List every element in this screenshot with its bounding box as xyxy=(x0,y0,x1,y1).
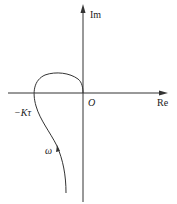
origin-label: O xyxy=(88,97,95,108)
real-axis-label: Re xyxy=(157,97,169,108)
nyquist-curve xyxy=(34,73,83,193)
intercept-label: −Kτ xyxy=(14,107,31,118)
real-axis-arrow xyxy=(159,91,168,96)
frequency-label: ω xyxy=(45,145,52,156)
imag-axis-arrow xyxy=(81,4,86,13)
nyquist-diagram: Im Re O −Kτ ω xyxy=(0,0,177,204)
imag-axis-label: Im xyxy=(90,9,101,20)
